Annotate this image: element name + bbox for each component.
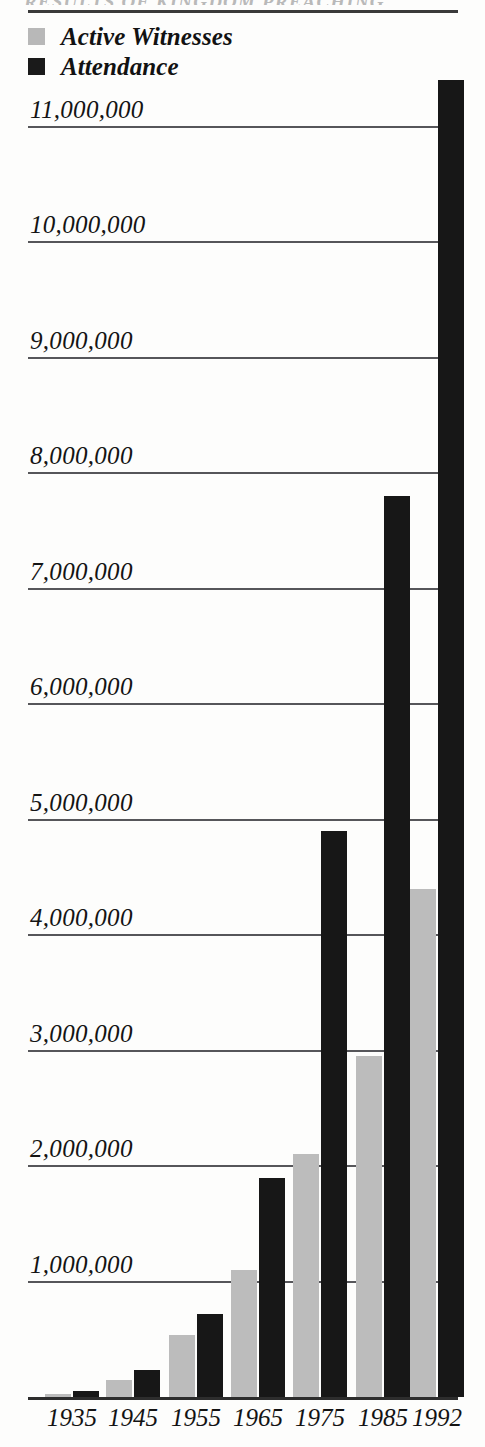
gridline — [28, 126, 458, 128]
y-axis-tick-label: 5,000,000 — [30, 790, 133, 815]
bar-1955-attendance — [197, 1314, 223, 1397]
bar-1965-active-witnesses — [231, 1270, 257, 1397]
bar-1985-active-witnesses — [356, 1056, 382, 1397]
bar-1975-attendance — [321, 831, 347, 1397]
chart-figure: RESULTS OF KINGDOM PREACHING Active Witn… — [0, 0, 485, 1447]
bar-1935-active-witnesses — [45, 1394, 71, 1397]
bar-1935-attendance — [73, 1391, 99, 1397]
gridline — [28, 472, 458, 474]
y-axis-tick-label: 6,000,000 — [30, 674, 133, 699]
bar-1992-attendance — [438, 80, 464, 1397]
plot-area: 1,000,0002,000,0003,000,0004,000,0005,00… — [0, 0, 485, 1447]
bar-1965-attendance — [259, 1178, 285, 1397]
y-axis-tick-label: 11,000,000 — [30, 97, 144, 122]
gridline — [28, 241, 458, 243]
bar-1955-active-witnesses — [169, 1335, 195, 1397]
gridline — [28, 357, 458, 359]
y-axis-tick-label: 9,000,000 — [30, 328, 133, 353]
y-axis-tick-label: 4,000,000 — [30, 905, 133, 930]
y-axis-tick-label: 10,000,000 — [30, 212, 146, 237]
y-axis-tick-label: 8,000,000 — [30, 443, 133, 468]
y-axis-tick-label: 2,000,000 — [30, 1136, 133, 1161]
bar-1945-attendance — [134, 1370, 160, 1397]
y-axis-tick-label: 7,000,000 — [30, 559, 133, 584]
x-axis-line — [28, 1397, 458, 1400]
y-axis-tick-label: 3,000,000 — [30, 1021, 133, 1046]
x-axis-tick-label-1992: 1992 — [399, 1405, 475, 1431]
bar-1985-attendance — [384, 496, 410, 1397]
bar-1945-active-witnesses — [106, 1380, 132, 1397]
bar-1992-active-witnesses — [410, 889, 436, 1397]
y-axis-tick-label: 1,000,000 — [30, 1252, 133, 1277]
bar-1975-active-witnesses — [293, 1154, 319, 1397]
